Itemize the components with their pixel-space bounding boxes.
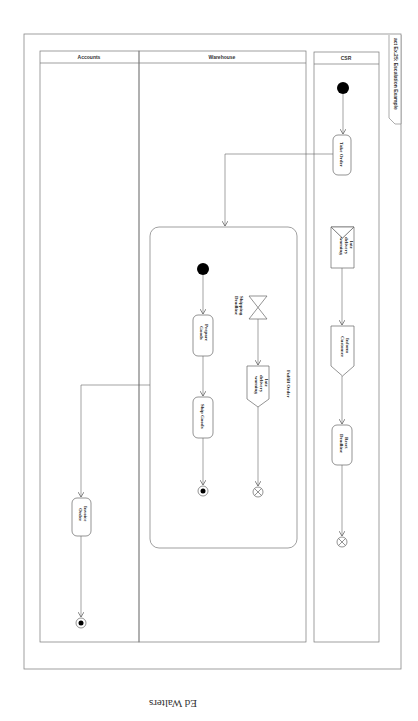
invoice-order-label: Invoice Order: [78, 506, 88, 522]
ship-goods-label: Ship Goods: [200, 404, 205, 429]
csr-initial-node: [337, 82, 349, 94]
svg-text:Deadline: Deadline: [234, 296, 239, 316]
lane-title-warehouse: Warehouse: [209, 54, 236, 60]
svg-text:warning: warning: [339, 237, 344, 255]
svg-text:Deadline: Deadline: [339, 434, 344, 454]
region-fulfill-order: [150, 227, 297, 548]
wh-initial-node: [197, 263, 209, 275]
take-order-label: Take Order: [339, 142, 344, 168]
prepare-goods-label: Prepare Goods: [199, 324, 209, 342]
time-event-shipping-deadline: [249, 296, 267, 319]
acc-activity-final-node: [76, 618, 86, 628]
wh-flow-final-node: [253, 487, 263, 497]
edge-fulfill-invoice: [81, 385, 150, 497]
caption-author: Ed Walters: [149, 698, 197, 710]
svg-text:warning: warning: [254, 376, 259, 394]
shipping-deadline-label: Shipping Deadline: [234, 296, 244, 316]
frame-label-tab: act Ex.25: Escalation Example: [389, 35, 401, 124]
swimlane-accounts: Accounts: [40, 51, 139, 642]
fulfill-order-label: Fulfill Order: [286, 370, 291, 398]
swimlane-warehouse: Warehouse: [139, 51, 306, 642]
csr-flow-final-node: [337, 537, 347, 547]
svg-text:Goods: Goods: [199, 326, 204, 340]
edge-take-order-fulfill: [225, 154, 333, 226]
svg-text:Customer: Customer: [340, 336, 345, 358]
svg-text:Order: Order: [78, 508, 83, 522]
lane-title-accounts: Accounts: [78, 54, 101, 60]
lane-title-csr: CSR: [341, 55, 352, 61]
frame-label: act Ex.25: Escalation Example: [393, 38, 399, 110]
wh-activity-final-node: [198, 486, 208, 496]
activity-diagram: act Ex.25: Escalation Example Accounts W…: [0, 0, 418, 721]
